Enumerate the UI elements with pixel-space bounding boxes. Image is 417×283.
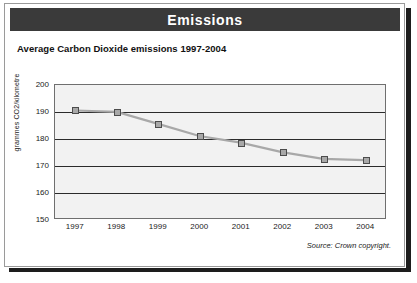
y-axis-tick-label: 150 — [25, 215, 49, 224]
data-point-marker-2002 — [280, 149, 287, 156]
data-point-marker-1997 — [72, 107, 79, 114]
banner-title: Emissions — [167, 12, 242, 28]
card-shadow-bottom — [9, 268, 411, 272]
data-point-marker-2000 — [197, 133, 204, 140]
screenshot-root: Emissions Average Carbon Dioxide emissio… — [0, 0, 417, 283]
y-axis-tick-label: 190 — [25, 107, 49, 116]
y-axis-labels: 150160170180190200 — [23, 84, 49, 219]
x-axis-tick-label: 2003 — [304, 222, 344, 231]
y-axis-tick-label: 180 — [25, 134, 49, 143]
data-point-marker-2003 — [321, 156, 328, 163]
card-shadow-right — [406, 8, 411, 270]
y-axis-tick-label: 160 — [25, 188, 49, 197]
x-axis-tick-label: 2004 — [345, 222, 385, 231]
y-axis-tick-label: 200 — [25, 80, 49, 89]
x-axis-tick-label: 1997 — [55, 222, 95, 231]
data-point-marker-1998 — [114, 109, 121, 116]
series-line — [76, 110, 365, 160]
y-axis-tick-label: 170 — [25, 161, 49, 170]
x-axis-tick-label: 2001 — [221, 222, 261, 231]
plot-inner — [55, 85, 385, 218]
x-axis-labels: 19971998199920002001200220032004 — [54, 222, 386, 236]
emissions-line-series — [55, 85, 385, 219]
emissions-card: Emissions Average Carbon Dioxide emissio… — [4, 3, 405, 267]
data-point-marker-2001 — [238, 140, 245, 147]
x-axis-tick-label: 1999 — [138, 222, 178, 231]
source-note: Source: Crown copyright. — [307, 241, 391, 250]
header-banner: Emissions — [10, 8, 400, 31]
data-point-marker-2004 — [363, 157, 370, 164]
x-axis-tick-label: 1998 — [96, 222, 136, 231]
chart-title: Average Carbon Dioxide emissions 1997-20… — [17, 43, 226, 54]
x-axis-tick-label: 2000 — [179, 222, 219, 231]
data-point-marker-1999 — [155, 121, 162, 128]
x-axis-tick-label: 2002 — [262, 222, 302, 231]
y-axis-title: grammes CO2/kilometre — [13, 53, 20, 173]
plot-area — [54, 84, 386, 219]
